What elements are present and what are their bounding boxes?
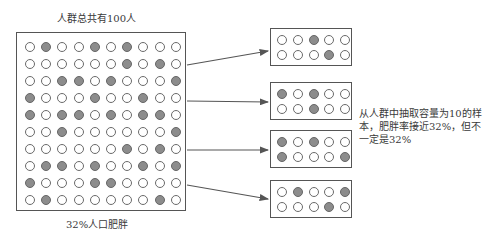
sampling-note: 从人群中抽取容量为10的样本，肥胖率接近32%，但不一定是32%: [359, 107, 484, 146]
arrow-1: [187, 51, 268, 65]
arrow-2: [187, 101, 268, 102]
arrow-4: [187, 185, 268, 199]
